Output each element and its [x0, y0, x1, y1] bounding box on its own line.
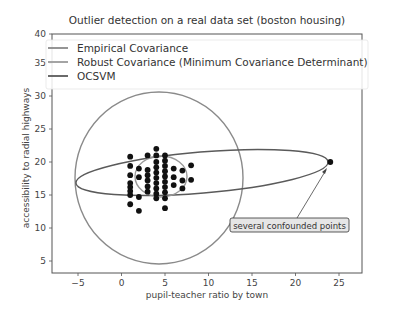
x-axis-label: pupil-teacher ratio by town	[146, 290, 268, 300]
data-point	[153, 195, 159, 201]
legend: Empirical Covariance Robust Covariance (…	[46, 40, 368, 89]
annotation: several confounded points	[230, 168, 349, 232]
data-point	[127, 172, 133, 178]
annotation-text: several confounded points	[233, 221, 346, 231]
legend-label: Empirical Covariance	[77, 42, 188, 54]
data-point	[327, 159, 333, 165]
data-point	[153, 180, 159, 186]
data-point	[153, 159, 159, 165]
data-point	[145, 167, 151, 173]
x-tick-label: 25	[333, 278, 344, 288]
x-tick-label: −5	[71, 278, 84, 288]
data-point	[188, 177, 194, 183]
data-point	[145, 184, 151, 190]
data-point	[145, 189, 151, 195]
x-axis-ticks: −50510152025	[71, 273, 344, 288]
data-point	[162, 179, 168, 185]
data-point	[162, 158, 168, 164]
data-point	[180, 178, 186, 184]
data-point	[171, 166, 177, 172]
data-point	[145, 172, 151, 178]
data-point	[162, 195, 168, 201]
data-point	[162, 189, 168, 195]
data-point	[162, 174, 168, 180]
data-point	[136, 194, 142, 200]
data-point	[162, 163, 168, 169]
data-point	[153, 146, 159, 152]
data-point	[153, 175, 159, 181]
x-tick-label: 20	[290, 278, 302, 288]
data-point	[127, 163, 133, 169]
x-tick-label: 15	[246, 278, 257, 288]
plot-area	[74, 92, 333, 264]
data-point	[171, 182, 177, 188]
data-point	[136, 166, 142, 172]
x-tick-label: 0	[119, 278, 125, 288]
data-point	[153, 186, 159, 192]
data-point	[162, 153, 168, 159]
data-point	[127, 154, 133, 160]
data-point	[136, 174, 142, 180]
y-tick-label: 35	[35, 58, 46, 68]
data-point	[153, 170, 159, 176]
x-tick-label: 5	[162, 278, 168, 288]
data-point	[162, 205, 168, 211]
legend-label: OCSVM	[77, 70, 116, 82]
legend-label: Robust Covariance (Minimum Covariance De…	[77, 56, 368, 68]
legend-item-robust: Robust Covariance (Minimum Covariance De…	[48, 56, 368, 68]
y-tick-label: 30	[35, 91, 47, 101]
data-point	[153, 153, 159, 159]
y-axis-label: accessibility to radial highways	[21, 87, 31, 228]
data-point	[145, 178, 151, 184]
y-tick-label: 20	[35, 157, 47, 167]
data-point	[153, 164, 159, 170]
x-tick-label: 10	[203, 278, 215, 288]
y-tick-label: 10	[35, 223, 47, 233]
data-point	[145, 153, 151, 159]
data-point	[188, 162, 194, 168]
data-point	[127, 201, 133, 207]
y-tick-label: 5	[40, 256, 46, 266]
y-tick-label: 40	[35, 29, 47, 39]
y-tick-label: 25	[35, 124, 46, 134]
robust-covariance-contour	[135, 156, 187, 197]
data-point	[136, 208, 142, 214]
data-point	[180, 168, 186, 174]
data-point	[180, 186, 186, 192]
chart-title: Outlier detection on a real data set (bo…	[69, 14, 345, 26]
data-point	[162, 168, 168, 174]
data-point	[127, 192, 133, 198]
chart: Outlier detection on a real data set (bo…	[0, 0, 393, 321]
ocsvm-contour	[74, 141, 330, 203]
data-point	[162, 184, 168, 190]
data-point	[171, 174, 177, 180]
y-tick-label: 15	[35, 190, 46, 200]
